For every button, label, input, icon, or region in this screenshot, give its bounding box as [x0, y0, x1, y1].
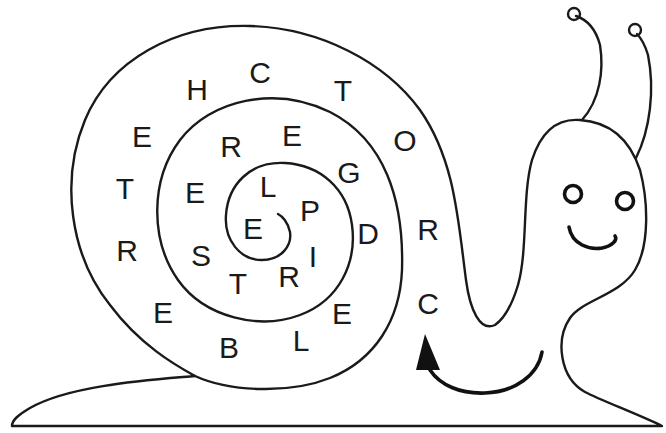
- left-eye: [565, 186, 582, 203]
- left-antenna-tip: [568, 8, 580, 20]
- spiral-letter: S: [191, 239, 211, 272]
- letter-grid: CROTCHETREBLEDGERESTRIPLE: [116, 56, 439, 364]
- spiral-letter: L: [260, 170, 277, 203]
- spiral-letter: E: [243, 212, 263, 245]
- spiral-letter: L: [293, 324, 310, 357]
- snail-puzzle: CROTCHETREBLEDGERESTRIPLE: [0, 0, 666, 433]
- spiral-letter: R: [278, 260, 300, 293]
- spiral-letter: R: [417, 213, 439, 246]
- spiral-letter: E: [282, 119, 302, 152]
- direction-arrow-head-icon: [416, 334, 440, 370]
- spiral-letter: H: [186, 73, 208, 106]
- spiral-letter: E: [153, 296, 173, 329]
- snail-drawing: CROTCHETREBLEDGERESTRIPLE: [0, 0, 666, 433]
- spiral-letter: E: [185, 176, 205, 209]
- spiral-letter: G: [337, 156, 360, 189]
- spiral-letter: R: [220, 130, 242, 163]
- spiral-letter: T: [116, 172, 134, 205]
- smile: [569, 227, 616, 248]
- right-antenna: [636, 34, 651, 158]
- spiral-letter: R: [116, 234, 138, 267]
- spiral-letter: B: [219, 331, 239, 364]
- left-antenna: [576, 16, 601, 120]
- spiral-letter: D: [357, 217, 379, 250]
- spiral-letter: E: [332, 297, 352, 330]
- spiral-letter: I: [309, 240, 317, 273]
- right-eye: [617, 193, 634, 210]
- right-antenna-tip: [629, 24, 641, 36]
- spiral-letter: O: [393, 124, 416, 157]
- spiral-letter: T: [229, 267, 247, 300]
- spiral-letter: C: [417, 287, 439, 320]
- spiral-letter: T: [334, 74, 352, 107]
- spiral-letter: C: [249, 56, 271, 89]
- direction-arrow-shaft: [430, 352, 542, 393]
- spiral-letter: P: [300, 194, 320, 227]
- spiral-letter: E: [132, 120, 152, 153]
